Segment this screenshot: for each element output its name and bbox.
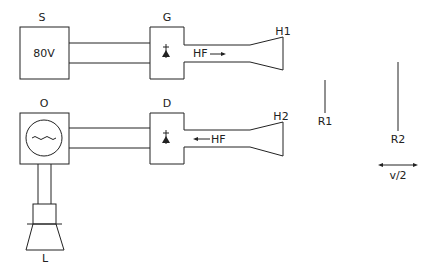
- source-block: S 80V: [20, 11, 69, 79]
- oscilloscope-detector-wires: [69, 128, 150, 148]
- oscilloscope-block: O: [20, 97, 69, 164]
- reflector-r1-label: R1: [318, 115, 333, 128]
- loudspeaker-label: L: [42, 252, 49, 265]
- detector-label: D: [163, 97, 171, 110]
- horn-h2-label: H2: [273, 110, 288, 123]
- generator-label: G: [163, 11, 172, 24]
- source-voltage: 80V: [33, 47, 55, 60]
- diagram-canvas: S 80V G HF H1 O D: [0, 0, 430, 272]
- horn-h1-label: H1: [275, 25, 290, 38]
- diode-icon: [162, 130, 170, 144]
- source-label: S: [39, 11, 46, 24]
- arrow-left-icon: [193, 137, 210, 141]
- oscilloscope-label: O: [40, 97, 49, 110]
- arrow-right-icon: [210, 52, 226, 56]
- generator-block: G HF: [150, 11, 283, 79]
- double-arrow-icon: [378, 163, 418, 167]
- reflector-r2-label: R2: [391, 133, 406, 146]
- loudspeaker: L: [26, 164, 64, 265]
- forward-hf-label: HF: [193, 47, 208, 60]
- return-hf-label: HF: [211, 133, 226, 146]
- reflector-r1: R1: [318, 80, 333, 128]
- source-generator-wires: [69, 43, 150, 63]
- diode-icon: [162, 44, 170, 58]
- reflector-r2: R2 v/2: [378, 62, 418, 182]
- velocity-label: v/2: [389, 169, 406, 182]
- sine-wave-icon: [32, 137, 56, 140]
- detector-block: D HF: [150, 97, 283, 164]
